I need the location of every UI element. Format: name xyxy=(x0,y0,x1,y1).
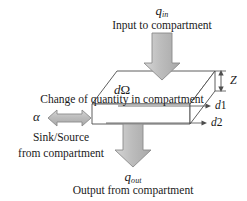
alpha-caption-line2: from compartment xyxy=(18,148,104,160)
dimension-z-label: Z xyxy=(230,74,237,86)
q-out-symbol-label: qout xyxy=(125,170,142,183)
q-in-symbol-label: qin xyxy=(156,4,169,17)
compartment-diagram: qin Input to compartment dΩ Change of qu… xyxy=(0,0,247,201)
box-front-face xyxy=(92,104,190,124)
dimension-d2-label: d2 xyxy=(211,117,223,129)
alpha-symbol-label: α xyxy=(33,110,40,123)
d-omega-caption: Change of quantity in compartment xyxy=(40,94,204,106)
q-in-subscript: in xyxy=(162,10,168,19)
alpha-arrow xyxy=(48,110,91,126)
q-out-arrow xyxy=(115,124,151,167)
q-in-letter: q xyxy=(156,3,163,18)
dimension-d1-label: d1 xyxy=(215,100,227,112)
d1-number: 1 xyxy=(221,99,227,111)
q-out-letter: q xyxy=(125,169,132,184)
alpha-caption-line1: Sink/Source xyxy=(33,132,89,144)
dimension-z-marker xyxy=(215,70,226,92)
q-out-caption: Output from compartment xyxy=(73,185,194,197)
q-in-caption: Input to compartment xyxy=(112,20,212,32)
d2-number: 2 xyxy=(217,116,223,128)
